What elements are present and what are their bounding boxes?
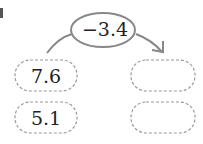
output-oval-2[interactable] — [131, 102, 195, 133]
arrow-tail — [47, 34, 72, 53]
operator-label: −3.4 — [80, 20, 130, 39]
arrow-head-path — [136, 34, 162, 52]
output-oval-1[interactable] — [131, 60, 195, 91]
input-value-1: 7.6 — [15, 67, 77, 86]
corner-mark — [0, 8, 3, 18]
input-value-2: 5.1 — [15, 109, 77, 128]
